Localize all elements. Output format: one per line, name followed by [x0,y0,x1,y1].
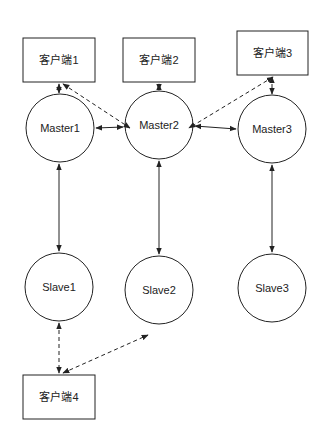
master2-label: Master2 [125,118,193,132]
master1-label: Master1 [26,121,94,135]
edge-master1-master2 [96,127,123,128]
master3-label: Master3 [238,122,306,136]
edge-master2-master3 [195,126,236,129]
client4-label: 客户端4 [23,390,95,404]
edge-client4-slave2 [63,335,148,373]
client2-label: 客户端2 [123,53,195,67]
client1-label: 客户端1 [23,53,95,67]
client3-label: 客户端3 [237,46,308,60]
slave2-label: Slave2 [125,283,193,297]
slave3-label: Slave3 [238,281,306,295]
slave1-label: Slave1 [25,280,93,294]
